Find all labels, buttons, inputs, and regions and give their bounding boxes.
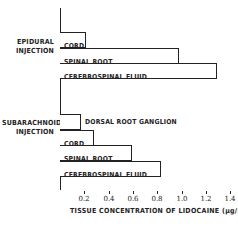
x-tick-label: 0.4 bbox=[99, 195, 119, 203]
bar-label: CEREBROSPINAL FLUID bbox=[60, 73, 147, 81]
bar: CEREBROSPINAL FLUID bbox=[60, 161, 161, 177]
group-label-line: INJECTION bbox=[2, 128, 54, 137]
bar: CORD bbox=[60, 130, 94, 146]
group-label-epidural: EPIDURAL INJECTION bbox=[2, 38, 54, 56]
x-tick bbox=[182, 191, 183, 194]
x-tick-label: 1.0 bbox=[172, 195, 192, 203]
x-tick-label: 1.2 bbox=[196, 195, 216, 203]
bar-label: CEREBROSPINAL FLUID bbox=[60, 171, 147, 179]
x-tick bbox=[230, 191, 231, 194]
x-tick bbox=[157, 191, 158, 194]
x-tick-label: 0.2 bbox=[74, 195, 94, 203]
bar: CEREBROSPINAL FLUID bbox=[60, 63, 217, 79]
bar: CORD bbox=[60, 32, 86, 48]
group-label-line: EPIDURAL bbox=[2, 38, 54, 47]
group-label-line: INJECTION bbox=[2, 47, 54, 56]
x-tick-label: 1.4 bbox=[220, 195, 238, 203]
x-tick bbox=[84, 191, 85, 194]
group-label-subarachnoid: SUBARACHNOID INJECTION bbox=[2, 119, 54, 137]
group-label-line: SUBARACHNOID bbox=[2, 119, 54, 128]
bar bbox=[60, 114, 81, 130]
x-tick bbox=[206, 191, 207, 194]
x-axis-label: TISSUE CONCENTRATION OF LIDOCAINE (µg/mg… bbox=[70, 207, 238, 215]
x-tick-label: 0.6 bbox=[123, 195, 143, 203]
bar-label: DORSAL ROOT GANGLION bbox=[85, 118, 177, 126]
x-tick bbox=[109, 191, 110, 194]
x-tick bbox=[133, 191, 134, 194]
bar: SPINAL ROOT bbox=[60, 48, 179, 64]
x-tick-label: 0.8 bbox=[147, 195, 167, 203]
bar: SPINAL ROOT bbox=[60, 145, 132, 161]
